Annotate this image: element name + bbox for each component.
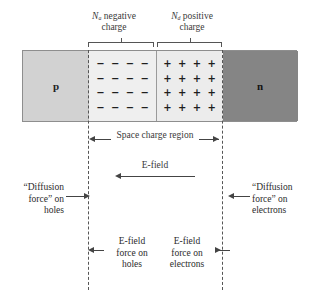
brace-right-arm [189,42,223,47]
brace-center-tick [121,38,122,43]
negative-charge-sign: − [140,59,148,69]
efield-force-holes-line1: E-field [119,236,145,246]
positive-charge-sign: + [178,103,186,113]
n-region-letter: n [257,80,263,92]
efield-force-holes-line2: force on [116,248,147,258]
negative-charge-sign: − [111,88,119,98]
negative-charge-sign: − [111,74,119,84]
positive-charge-sign: + [207,103,215,113]
negative-charge-sign: − [96,103,104,113]
positive-charge-sign: + [163,74,171,84]
brace-center-tick [190,38,191,43]
depletion-boundary-right [222,50,223,290]
efield-arrowhead-left-icon [115,173,121,179]
positive-charge-sign: + [178,59,186,69]
negative-charge-sign: − [140,88,148,98]
negative-charge-sign: − [140,103,148,113]
negative-charge-sign: − [111,103,119,113]
diffusion-holes-line3: holes [44,205,64,215]
acceptor-region-brace [88,38,154,46]
diffusion-holes-line2: force” on [28,194,64,204]
space-charge-region-label: Space charge region [107,130,203,140]
positive-charge-sign: + [207,59,215,69]
positive-charge-sign: + [193,74,201,84]
negative-charge-sign: − [96,59,104,69]
acceptor-label-line2: charge [101,22,126,32]
diffusion-electrons-line2: force” on [252,194,288,204]
positive-charge-sign: + [193,88,201,98]
semiconductor-bar: p n −−−−−−−−−−−−−−−− ++++++++++++++++ [22,50,297,122]
efield-force-electrons-label: E-field force on electrons [160,236,214,271]
efield-force-holes-label: E-field force on holes [106,236,158,271]
negative-charge-sign: − [140,74,148,84]
positive-charge-sign: + [178,88,186,98]
diffusion-electrons-line1: “Diffusion [252,182,292,192]
efield-arrow-line [117,176,195,177]
efield-force-holes-arrowhead-left-icon [88,247,94,253]
diffusion-holes-arrow-line [66,196,86,197]
positive-charge-sign: + [193,59,201,69]
diffusion-force-holes-label: “Diffusion force” on holes [2,182,64,217]
donor-label-line2: charge [179,22,204,32]
depletion-boundary-left [88,50,89,290]
positive-charge-sign: + [193,103,201,113]
diffusion-force-electrons-label: “Diffusion force” on electrons [252,182,316,217]
positive-charge-sign: + [207,74,215,84]
brace-right-arm [120,42,154,47]
diffusion-electrons-line3: electrons [252,205,286,215]
positive-charge-sign: + [178,74,186,84]
efield-force-electrons-line3: electrons [170,259,204,269]
space-charge-arrowhead-right-icon [213,136,219,142]
diffusion-electrons-arrowhead-left-icon [228,193,234,199]
efield-label: E-field [125,160,185,170]
diffusion-holes-line1: “Diffusion [24,182,64,192]
p-region-letter: p [53,80,59,92]
negative-charge-sign: − [96,74,104,84]
negative-charge-sign: − [126,103,134,113]
acceptor-charge-label: Na negative charge [78,11,150,33]
negative-charge-grid: −−−−−−−−−−−−−−−− [89,51,156,121]
brace-left-arm [157,42,191,47]
efield-force-electrons-line1: E-field [174,236,200,246]
space-charge-arrowhead-left-icon [89,136,95,142]
negative-charge-sign: − [126,88,134,98]
positive-charge-grid: ++++++++++++++++ [156,51,223,121]
donor-region-brace [157,38,222,46]
efield-force-holes-line3: holes [122,259,142,269]
donor-charge-label: Nd positive charge [156,11,228,33]
positive-charge-sign: + [207,88,215,98]
pn-junction-diagram: Na negative charge Nd positive charge p … [0,0,317,299]
efield-force-electrons-arrowhead-right-icon [215,247,221,253]
negative-charge-sign: − [111,59,119,69]
positive-charge-sign: + [163,103,171,113]
negative-charge-sign: − [126,74,134,84]
positive-charge-sign: + [163,59,171,69]
diffusion-holes-arrowhead-right-icon [84,193,90,199]
negative-charge-sign: − [126,59,134,69]
positive-charge-sign: + [163,88,171,98]
negative-charge-sign: − [96,88,104,98]
brace-left-arm [88,42,122,47]
efield-force-electrons-line2: force on [171,248,202,258]
acceptor-label-line1: negative [101,11,136,21]
donor-label-line1: positive [180,11,212,21]
